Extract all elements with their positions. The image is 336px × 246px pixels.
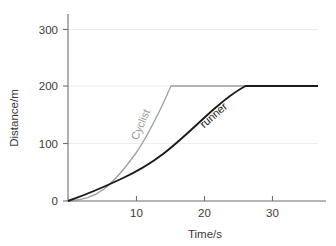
y-tick-label-200: 200 [39,80,58,92]
x-tick-label-20: 20 [198,207,211,219]
x-axis-ticks [137,196,273,201]
y-axis-title: Distance/m [8,89,20,147]
x-tick-label-30: 30 [266,207,279,219]
y-tick-label-100: 100 [39,138,58,150]
y-tick-label-0: 0 [52,195,58,207]
x-tick-label-10: 10 [130,207,143,219]
y-tick-label-300: 300 [39,24,58,36]
chart-svg: 300 200 100 0 10 20 30 Time/s Distance/m… [0,0,336,246]
series-label-runner: runner [197,100,229,130]
series-label-cyclist: Cyclist [128,107,152,141]
distance-time-chart: 300 200 100 0 10 20 30 Time/s Distance/m… [0,0,336,246]
y-axis-ticks [63,30,68,202]
x-axis-title: Time/s [188,228,222,240]
